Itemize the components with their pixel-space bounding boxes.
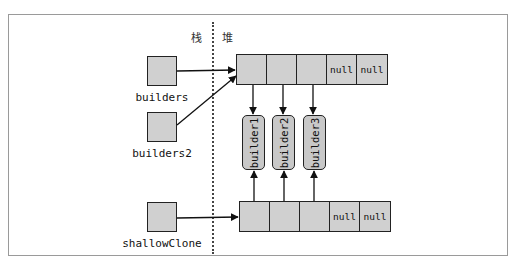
builders-arrow	[177, 70, 235, 71]
builders2-arrow	[177, 76, 236, 125]
shallowclone-arrow	[177, 217, 238, 218]
arrows	[0, 0, 516, 269]
